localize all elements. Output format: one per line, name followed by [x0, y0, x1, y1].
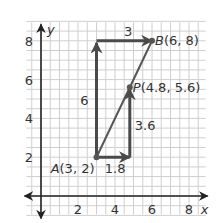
x-tick-label: 4 [111, 202, 119, 217]
y-tick-label: 4 [25, 111, 33, 126]
vector-label-rise-AP: 3.6 [135, 118, 156, 133]
point-coords: (6, 8) [164, 33, 199, 48]
coordinate-plane: xy 24682468 631.83.6 A(3, 2)B(6, 8)P(4.8… [0, 0, 221, 223]
x-tick-label: 2 [74, 202, 82, 217]
coordinate-diagram: xy 24682468 631.83.6 A(3, 2)B(6, 8)P(4.8… [0, 0, 221, 223]
x-tick-label: 6 [148, 202, 156, 217]
vector-label-run-AB: 3 [124, 24, 132, 39]
vectors: 631.83.6 [80, 24, 155, 176]
point-coords: (3, 2) [60, 161, 95, 176]
point-label-B: B(6, 8) [155, 33, 199, 48]
point-A [94, 154, 100, 160]
point-label-A: A(3, 2) [50, 161, 95, 176]
axes: xy [25, 22, 209, 218]
y-tick-label: 2 [25, 150, 33, 165]
y-tick-label: 6 [25, 73, 33, 88]
point-name: B [155, 33, 164, 48]
point-coords: (4.8, 5.6) [141, 80, 201, 95]
x-tick-label: 8 [185, 202, 193, 217]
x-axis-label: x [200, 202, 209, 217]
points: A(3, 2)B(6, 8)P(4.8, 5.6) [50, 33, 201, 176]
y-axis-label: y [46, 22, 55, 37]
point-label-P: P(4.8, 5.6) [133, 80, 201, 95]
vector-label-run-AP: 1.8 [105, 161, 126, 176]
point-name: P [133, 80, 141, 95]
point-name: A [50, 161, 60, 176]
y-tick-label: 8 [25, 34, 33, 49]
vector-label-rise-AB: 6 [80, 93, 88, 108]
